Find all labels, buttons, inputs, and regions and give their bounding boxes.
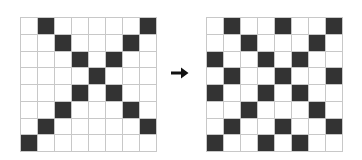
empty-cell xyxy=(140,35,157,52)
empty-cell xyxy=(55,135,72,152)
empty-cell xyxy=(72,102,89,119)
empty-cell xyxy=(140,68,157,85)
empty-cell xyxy=(55,119,72,136)
filled-cell xyxy=(292,85,309,102)
empty-cell xyxy=(140,85,157,102)
empty-cell xyxy=(89,52,106,69)
empty-cell xyxy=(89,85,106,102)
filled-cell xyxy=(72,52,89,69)
empty-cell xyxy=(21,18,38,35)
empty-cell xyxy=(207,102,224,119)
empty-cell xyxy=(140,102,157,119)
empty-cell xyxy=(275,52,292,69)
filled-cell xyxy=(207,52,224,69)
empty-cell xyxy=(140,52,157,69)
empty-cell xyxy=(207,119,224,136)
filled-cell xyxy=(241,102,258,119)
filled-cell xyxy=(207,135,224,152)
empty-cell xyxy=(55,85,72,102)
filled-cell xyxy=(275,68,292,85)
empty-cell xyxy=(326,102,343,119)
empty-cell xyxy=(326,135,343,152)
empty-cell xyxy=(38,85,55,102)
empty-cell xyxy=(72,68,89,85)
empty-cell xyxy=(21,102,38,119)
filled-cell xyxy=(309,102,326,119)
empty-cell xyxy=(207,35,224,52)
empty-cell xyxy=(258,18,275,35)
empty-cell xyxy=(89,119,106,136)
empty-cell xyxy=(224,135,241,152)
filled-cell xyxy=(55,102,72,119)
empty-cell xyxy=(326,85,343,102)
empty-cell xyxy=(38,102,55,119)
filled-cell xyxy=(309,35,326,52)
filled-cell xyxy=(275,119,292,136)
empty-cell xyxy=(89,135,106,152)
filled-cell xyxy=(123,35,140,52)
empty-cell xyxy=(275,102,292,119)
empty-cell xyxy=(72,18,89,35)
empty-cell xyxy=(38,35,55,52)
empty-cell xyxy=(123,68,140,85)
empty-cell xyxy=(224,35,241,52)
empty-cell xyxy=(292,18,309,35)
empty-cell xyxy=(275,85,292,102)
filled-cell xyxy=(55,35,72,52)
empty-cell xyxy=(207,68,224,85)
empty-cell xyxy=(241,52,258,69)
empty-cell xyxy=(241,85,258,102)
filled-cell xyxy=(292,135,309,152)
empty-cell xyxy=(241,119,258,136)
empty-cell xyxy=(89,35,106,52)
filled-cell xyxy=(241,35,258,52)
empty-cell xyxy=(326,35,343,52)
empty-cell xyxy=(258,68,275,85)
empty-cell xyxy=(72,135,89,152)
filled-cell xyxy=(106,85,123,102)
empty-cell xyxy=(241,18,258,35)
empty-cell xyxy=(309,135,326,152)
filled-cell xyxy=(140,18,157,35)
empty-cell xyxy=(106,68,123,85)
empty-cell xyxy=(21,68,38,85)
empty-cell xyxy=(38,52,55,69)
empty-cell xyxy=(21,35,38,52)
empty-cell xyxy=(72,119,89,136)
empty-cell xyxy=(258,35,275,52)
empty-cell xyxy=(292,68,309,85)
empty-cell xyxy=(123,18,140,35)
empty-cell xyxy=(21,119,38,136)
filled-cell xyxy=(326,68,343,85)
empty-cell xyxy=(123,135,140,152)
empty-cell xyxy=(123,52,140,69)
empty-cell xyxy=(224,102,241,119)
empty-cell xyxy=(224,52,241,69)
empty-cell xyxy=(309,18,326,35)
empty-cell xyxy=(224,85,241,102)
empty-cell xyxy=(55,52,72,69)
empty-cell xyxy=(309,119,326,136)
filled-cell xyxy=(275,18,292,35)
empty-cell xyxy=(123,119,140,136)
empty-cell xyxy=(292,119,309,136)
filled-cell xyxy=(140,119,157,136)
filled-cell xyxy=(258,85,275,102)
empty-cell xyxy=(309,85,326,102)
output-grid xyxy=(206,17,343,152)
empty-cell xyxy=(241,68,258,85)
filled-cell xyxy=(38,119,55,136)
empty-cell xyxy=(21,52,38,69)
empty-cell xyxy=(106,35,123,52)
input-grid xyxy=(20,17,157,152)
empty-cell xyxy=(38,68,55,85)
empty-cell xyxy=(309,68,326,85)
empty-cell xyxy=(89,102,106,119)
empty-cell xyxy=(140,135,157,152)
empty-cell xyxy=(106,135,123,152)
empty-cell xyxy=(292,102,309,119)
filled-cell xyxy=(21,135,38,152)
empty-cell xyxy=(258,102,275,119)
empty-cell xyxy=(72,35,89,52)
filled-cell xyxy=(123,102,140,119)
